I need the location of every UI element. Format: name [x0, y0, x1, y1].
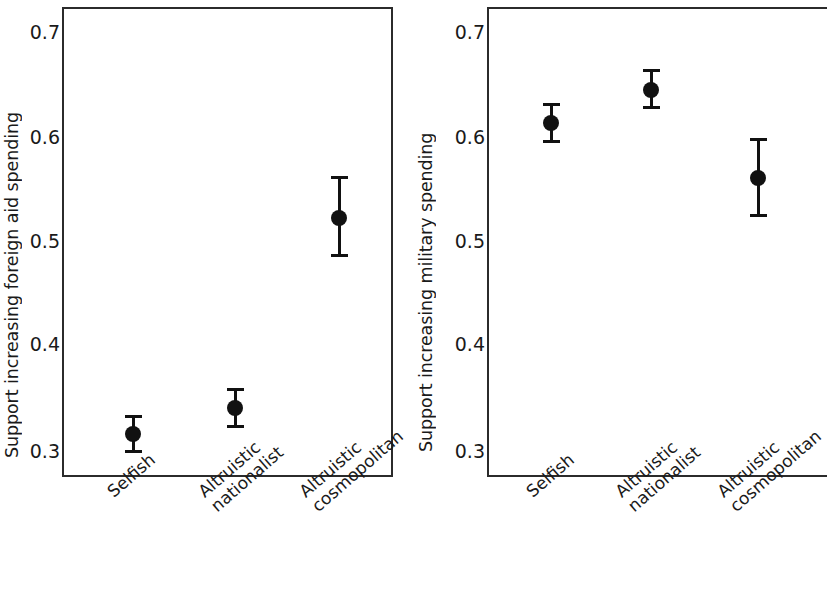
y-axis-title-military: Support increasing military spending [416, 52, 436, 452]
panel-military: Support increasing military spending 0.7… [406, 0, 812, 594]
y-axis-tick-label-0-6: 0.6 [14, 128, 60, 147]
y-axis-tick-label-0-3: 0.3 [439, 442, 485, 461]
y-axis-tick-label-0-7: 0.7 [14, 23, 60, 42]
y-axis-tick-label-0-7: 0.7 [439, 23, 485, 42]
y-axis-tick-label-0-5: 0.5 [439, 232, 485, 251]
panel-foreign-aid: Support increasing foreign aid spending … [0, 0, 406, 594]
y-axis-tick-label-0-3: 0.3 [14, 442, 60, 461]
y-axis-tick-label-0-6: 0.6 [439, 128, 485, 147]
plot-frame-foreign-aid [62, 7, 393, 477]
y-axis-tick-label-0-4: 0.4 [439, 335, 485, 354]
plot-frame-military [487, 7, 827, 477]
y-axis-tick-label-0-5: 0.5 [14, 232, 60, 251]
y-axis-tick-label-0-4: 0.4 [14, 335, 60, 354]
